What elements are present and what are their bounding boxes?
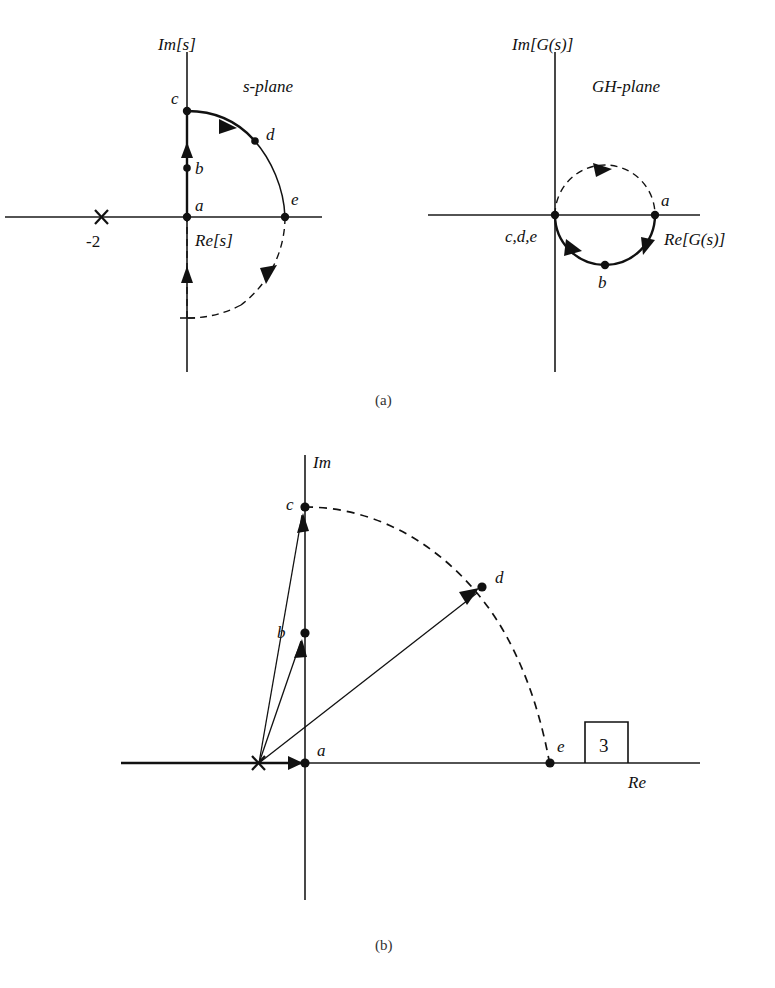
panel-b-vector-pole-to-b	[259, 641, 301, 763]
panel-b-imag-axis-label: Im	[312, 453, 331, 472]
gh-plane-arc-lower-solid	[555, 215, 655, 265]
panel-b-point-label-a: a	[317, 741, 326, 760]
arrow-icon-gh-right-lower	[641, 237, 655, 255]
s-plane-point-label-a: a	[195, 196, 204, 215]
s-plane-label: s-plane	[243, 77, 294, 96]
figure-root: Im[s] Re[s] s-plane -2 c b a d e	[0, 0, 775, 988]
gh-plane-point-label-a: a	[661, 191, 670, 210]
arrow-icon-vector-d	[459, 588, 479, 605]
panel-b-value-box: 3	[585, 722, 628, 763]
s-plane-point-label-c: c	[171, 89, 179, 108]
s-plane-point-c	[183, 107, 191, 115]
gh-plane-real-axis-label: Re[G(s)]	[663, 230, 725, 249]
s-plane-point-b	[183, 164, 191, 172]
gh-plane-point-b	[601, 261, 609, 269]
s-plane-real-axis-label: Re[s]	[194, 231, 233, 250]
s-plane-imag-axis-label: Im[s]	[157, 35, 196, 54]
gh-plane-point-label-cde: c,d,e	[505, 227, 538, 246]
panel-b-vector-pole-to-d	[259, 593, 477, 763]
gh-plane-point-cde	[551, 211, 559, 219]
panel-b-box-value: 3	[599, 735, 609, 756]
panel-b-arc-dashed	[305, 507, 549, 760]
s-plane-arc-e-to-bottom-dashed	[241, 217, 285, 305]
s-plane-pole-label: -2	[86, 232, 100, 251]
s-plane-arc-d-to-e	[254, 140, 285, 217]
panel-b-plot: 3 Im Re c b a d e	[121, 453, 700, 900]
panel-b-point-b	[300, 628, 309, 637]
gh-plane-imag-axis-label: Im[G(s)]	[511, 35, 573, 54]
panel-b-point-e	[545, 758, 554, 767]
arrow-icon-gh-left-lower	[564, 239, 582, 256]
panel-b-point-a	[300, 758, 309, 767]
panel-a-left-plot: Im[s] Re[s] s-plane -2 c b a d e	[5, 35, 322, 372]
panel-b-point-c	[300, 502, 309, 511]
gh-plane-label: GH-plane	[592, 77, 660, 96]
s-plane-point-label-d: d	[266, 125, 275, 144]
panel-b-point-label-b: b	[277, 623, 286, 642]
s-plane-point-label-e: e	[291, 190, 299, 209]
gh-plane-point-a	[651, 211, 659, 219]
arrow-up-icon-segment-bottom	[181, 266, 193, 283]
s-plane-point-label-b: b	[195, 159, 204, 178]
figure-svg: Im[s] Re[s] s-plane -2 c b a d e	[0, 0, 775, 988]
panel-b-point-label-c: c	[286, 495, 294, 514]
panel-a-right-plot: Im[G(s)] Re[G(s)] GH-plane a b c,d,e	[428, 35, 725, 372]
s-plane-point-d	[251, 137, 259, 145]
gh-plane-point-label-b: b	[598, 273, 607, 292]
arrow-up-icon-segment-ac	[181, 142, 193, 158]
s-plane-point-a	[183, 213, 191, 221]
panel-b-real-axis-label: Re	[627, 773, 646, 792]
panel-b-point-d	[477, 582, 486, 591]
s-plane-point-e	[281, 213, 289, 221]
arrow-up-icon-vector-c	[297, 513, 309, 533]
caption-b: (b)	[375, 937, 393, 954]
panel-b-point-label-e: e	[557, 737, 565, 756]
s-plane-arc-bottom-dashed	[188, 305, 241, 318]
caption-a: (a)	[375, 392, 392, 409]
arrow-icon-arc-lower-dashed	[260, 265, 277, 284]
panel-b-point-label-d: d	[495, 568, 504, 587]
